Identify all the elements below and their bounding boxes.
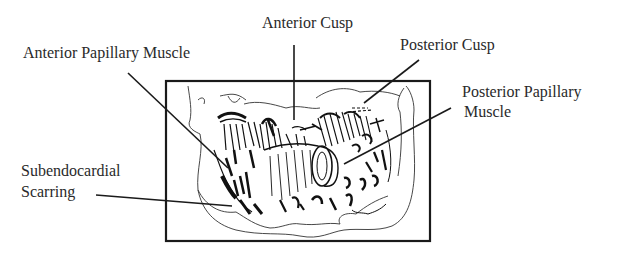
label-posterior-papillary-muscle-line1: Posterior Papillary: [462, 82, 582, 101]
leader-lines: [96, 45, 451, 206]
label-anterior-papillary-muscle: Anterior Papillary Muscle: [23, 43, 190, 62]
leader-anterior-papillary-muscle: [128, 73, 228, 168]
label-posterior-cusp: Posterior Cusp: [400, 35, 495, 54]
label-subendocardial-scarring-line1: Subendocardial: [21, 161, 121, 180]
posterior-cusp-drawing: [280, 108, 391, 214]
label-subendocardial-scarring-line2: Scarring: [21, 182, 75, 201]
heart-specimen-diagram: [0, 0, 621, 255]
label-posterior-papillary-muscle-line2: Muscle: [464, 102, 511, 121]
leader-subendocardial-scarring: [96, 195, 232, 206]
label-anterior-cusp: Anterior Cusp: [262, 13, 353, 32]
